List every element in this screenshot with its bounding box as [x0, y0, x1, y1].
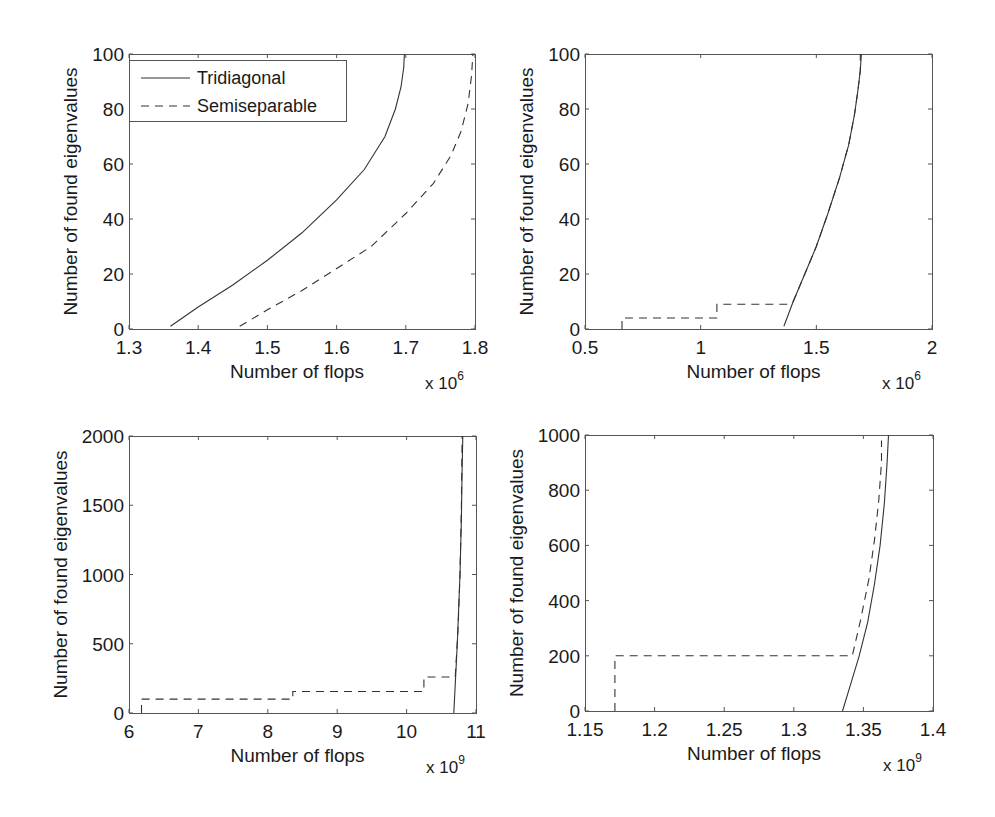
x-tick-label: 1.7 [393, 337, 419, 358]
y-tick-label: 100 [92, 44, 124, 65]
y-tick-label: 600 [548, 535, 580, 556]
x-tick-label: 1.4 [185, 337, 212, 358]
x-tick-label: 9 [332, 721, 343, 742]
x-tick-label: 1.35 [845, 719, 882, 740]
y-tick-label: 1000 [538, 425, 580, 446]
x-tick-label: 0.5 [572, 337, 598, 358]
x-tick-label: 1.25 [706, 719, 743, 740]
y-axis-label: Number of found eigenvalues [50, 450, 71, 698]
x-tick-label: 1 [695, 337, 706, 358]
x-axis-label: Number of flops [230, 361, 364, 382]
x-tick-label: 1.2 [641, 719, 667, 740]
y-tick-label: 1500 [82, 495, 124, 516]
x-tick-label: 7 [193, 721, 204, 742]
y-tick-label: 200 [548, 646, 580, 667]
y-axis-label: Number of found eigenvalues [506, 449, 527, 697]
y-tick-label: 40 [103, 209, 124, 230]
x-tick-label: 8 [263, 721, 274, 742]
x-axis-label: Number of flops [686, 361, 820, 382]
y-tick-label: 20 [559, 264, 580, 285]
y-tick-label: 500 [92, 634, 124, 655]
x-tick-label: 6 [124, 721, 135, 742]
x-axis-label: Number of flops [687, 743, 821, 764]
x-tick-label: 1.5 [254, 337, 280, 358]
x-tick-label: 1.3 [781, 719, 807, 740]
y-tick-label: 80 [103, 99, 124, 120]
y-tick-label: 0 [113, 703, 124, 724]
y-axis-label: Number of found eigenvalues [516, 67, 537, 315]
y-tick-label: 0 [569, 319, 580, 340]
x-axis-label: Number of flops [230, 745, 364, 766]
figure-background [0, 0, 995, 817]
y-tick-label: 100 [548, 44, 580, 65]
y-tick-label: 60 [103, 154, 124, 175]
x-tick-label: 11 [466, 721, 486, 742]
x-tick-label: 10 [396, 721, 417, 742]
y-tick-label: 80 [559, 99, 580, 120]
legend-label-tridiagonal: Tridiagonal [197, 68, 285, 88]
x-tick-label: 1.3 [116, 337, 142, 358]
y-tick-label: 0 [113, 319, 124, 340]
legend: Tridiagonal Semiseparable [130, 61, 347, 122]
y-tick-label: 40 [559, 209, 580, 230]
x-tick-label: 2 [927, 337, 938, 358]
x-tick-label: 1.6 [323, 337, 349, 358]
y-tick-label: 60 [559, 154, 580, 175]
y-tick-label: 0 [569, 701, 580, 722]
y-tick-label: 800 [548, 480, 580, 501]
x-tick-label: 1.5 [803, 337, 829, 358]
y-tick-label: 1000 [82, 565, 124, 586]
x-tick-label: 1.4 [920, 719, 947, 740]
y-axis-label: Number of found eigenvalues [60, 67, 81, 315]
y-tick-label: 20 [103, 264, 124, 285]
legend-label-semiseparable: Semiseparable [197, 96, 317, 116]
figure: 1.31.41.51.61.71.8020406080100Number of … [0, 0, 995, 817]
y-tick-label: 2000 [82, 426, 124, 447]
x-tick-label: 1.15 [567, 719, 604, 740]
y-tick-label: 400 [548, 591, 580, 612]
x-tick-label: 1.8 [462, 337, 488, 358]
